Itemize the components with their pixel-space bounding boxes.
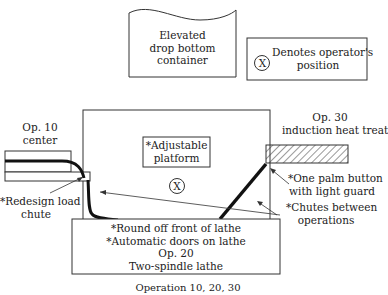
text-line: operations — [286, 214, 366, 227]
op20-label: *Round off front of lathe *Automatic doo… — [72, 222, 280, 272]
container-label: Elevated drop bottom container — [140, 29, 225, 67]
text-line: *Adjustable — [143, 139, 210, 152]
text-line: *Automatic doors on lathe — [72, 235, 280, 248]
text-line: *Redesign load — [0, 195, 72, 208]
text-line: Op. 20 — [72, 247, 280, 260]
palm-label: *One palm button with light guard — [288, 172, 376, 197]
text-line: chute — [0, 208, 72, 221]
text-line: with light guard — [288, 185, 376, 198]
text-line: Op. 30 — [282, 111, 378, 124]
op30-machine — [266, 145, 348, 163]
figure-caption: Operation 10, 20, 30 — [100, 282, 276, 295]
text-line: *Chutes between — [286, 201, 366, 214]
operator-x-symbol: X — [171, 180, 183, 193]
text-line: Denotes operator's — [272, 46, 364, 59]
legend-label: Denotes operator's position — [272, 46, 364, 71]
text-line: induction heat treat — [282, 124, 378, 137]
op30-label: Op. 30 induction heat treat — [282, 111, 378, 136]
text-line: *Round off front of lathe — [72, 222, 280, 235]
redesign-label: *Redesign load chute — [0, 195, 72, 220]
text-line: container — [140, 54, 225, 67]
text-line: *One palm button — [288, 172, 376, 185]
text-line: Elevated — [140, 29, 225, 42]
text-line: drop bottom — [140, 42, 225, 55]
legend-x-symbol: X — [257, 57, 268, 70]
platform-label: *Adjustable platform — [143, 139, 210, 164]
text-line: Two-spindle lathe — [72, 260, 280, 273]
text-line: center — [10, 134, 70, 147]
text-line: Op. 10 — [10, 121, 70, 134]
text-line: position — [272, 59, 364, 72]
text-line: platform — [143, 152, 210, 165]
op10-label: Op. 10 center — [10, 121, 70, 146]
chutes-label: *Chutes between operations — [286, 201, 366, 226]
